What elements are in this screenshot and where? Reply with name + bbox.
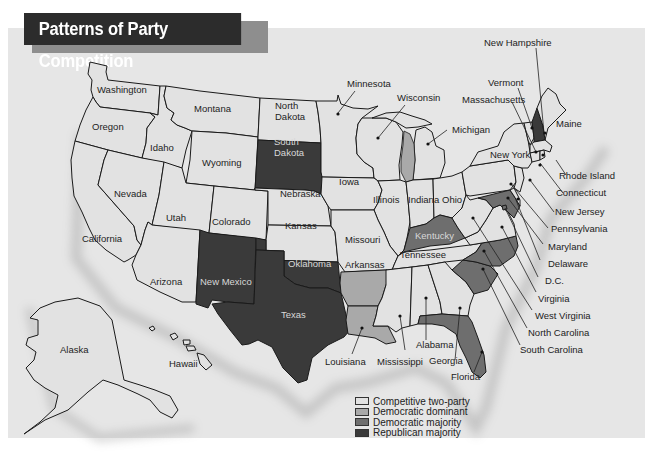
label-arizona: Arizona — [150, 276, 183, 287]
label-vermont: Vermont — [488, 77, 524, 88]
label-washington: Washington — [97, 84, 147, 95]
label-new-hampshire: New Hampshire — [484, 37, 552, 48]
label-new-york: New York — [490, 149, 530, 160]
state-new-jersey — [514, 166, 524, 192]
label-new-mexico: New Mexico — [200, 276, 252, 287]
legend-item-competitive: Competitive two-party — [355, 396, 470, 407]
label-nevada: Nevada — [114, 188, 147, 199]
label-pennsylvania: Pennsylvania — [551, 223, 608, 234]
label-virginia: Virginia — [538, 293, 570, 304]
label-utah: Utah — [166, 212, 186, 223]
state-dc — [502, 205, 507, 210]
label-west-virginia: West Virginia — [535, 310, 591, 321]
label-rhode-island: Rhode Island — [559, 170, 615, 181]
label-arkansas: Arkansas — [345, 259, 385, 270]
label-florida: Florida — [451, 371, 481, 382]
label-new-jersey: New Jersey — [555, 206, 605, 217]
label-alabama: Alabama — [416, 339, 454, 350]
swatch-democratic-dominant — [355, 408, 369, 416]
legend-item-democratic-majority: Democratic majority — [355, 417, 470, 428]
label-maryland: Maryland — [548, 241, 587, 252]
legend-item-democratic-dominant: Democratic dominant — [355, 407, 470, 418]
swatch-republican-majority — [355, 429, 369, 437]
label-oregon: Oregon — [92, 121, 124, 132]
label-california: California — [82, 233, 123, 244]
label-north-dakota: North — [275, 100, 298, 111]
label-north-dakota-2: Dakota — [275, 111, 306, 122]
swatch-competitive — [355, 397, 369, 405]
label-maine: Maine — [556, 118, 582, 129]
label-nebraska: Nebraska — [280, 188, 321, 199]
state-alaska — [24, 298, 178, 434]
legend-item-republican-majority: Republican majority — [355, 428, 470, 439]
label-south-dakota-2: Dakota — [274, 147, 305, 158]
label-illinois: Illinois — [373, 194, 400, 205]
label-south-dakota: South — [274, 136, 299, 147]
label-georgia: Georgia — [429, 355, 464, 366]
label-tennessee: Tennessee — [400, 249, 446, 260]
state-new-mexico — [196, 230, 256, 308]
label-kentucky: Kentucky — [415, 230, 454, 241]
label-iowa: Iowa — [339, 176, 360, 187]
label-oklahoma: Oklahoma — [288, 258, 332, 269]
label-dc: D.C. — [545, 275, 564, 286]
swatch-democratic-majority — [355, 418, 369, 426]
label-louisiana: Louisiana — [325, 356, 366, 367]
label-ohio: Ohio — [442, 194, 462, 205]
legend-label: Competitive two-party — [373, 396, 470, 407]
label-connecticut: Connecticut — [556, 187, 607, 198]
label-missouri: Missouri — [345, 234, 380, 245]
label-hawaii: Hawaii — [169, 358, 198, 369]
label-delaware: Delaware — [548, 258, 588, 269]
label-south-carolina: South Carolina — [520, 344, 584, 355]
legend-label: Democratic majority — [373, 417, 461, 428]
label-kansas: Kansas — [285, 220, 317, 231]
state-colorado — [209, 186, 268, 240]
label-wyoming: Wyoming — [202, 157, 242, 168]
lake-michigan — [401, 131, 415, 182]
label-colorado: Colorado — [212, 216, 251, 227]
legend-label: Democratic dominant — [373, 406, 467, 417]
label-idaho: Idaho — [150, 142, 174, 153]
label-mississippi: Mississippi — [377, 356, 423, 367]
legend-label: Republican majority — [373, 427, 461, 438]
label-minnesota: Minnesota — [347, 78, 392, 89]
label-michigan: Michigan — [452, 124, 490, 135]
label-texas: Texas — [281, 309, 306, 320]
legend: Competitive two-party Democratic dominan… — [355, 396, 470, 438]
label-north-carolina: North Carolina — [528, 327, 590, 338]
label-alaska: Alaska — [60, 344, 89, 355]
label-montana: Montana — [194, 103, 232, 114]
label-massachusetts: Massachusetts — [462, 94, 526, 105]
label-indiana: Indiana — [408, 194, 440, 205]
label-wisconsin: Wisconsin — [397, 92, 440, 103]
us-map: Washington Oregon California Idaho Nevad… — [0, 0, 645, 466]
